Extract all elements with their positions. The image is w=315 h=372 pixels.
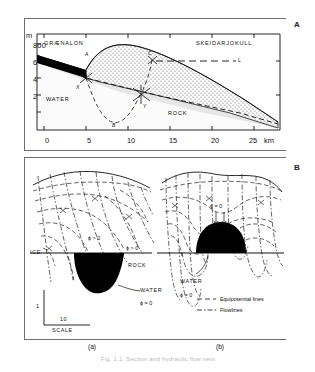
subpanel-caption-b: (b) <box>200 343 240 350</box>
subpanel-caption-a: (a) <box>72 343 112 350</box>
panel-b-b-label-water: WATER <box>180 278 202 284</box>
panel-b-b-water-leader <box>196 256 208 274</box>
panel-b-a-water-leader <box>118 285 140 291</box>
legend-label-equipotential: Equipotential lines <box>220 296 264 302</box>
panel-b-a-phi-pos-right: ϕ > 0 <box>126 245 138 251</box>
panel-b-b-phi-zero-top: ϕ = 0 <box>210 203 222 209</box>
panel-b-scale-horizontal: 10 <box>60 316 67 322</box>
panel-b-a-group <box>30 171 154 293</box>
panel-b-a-water-top <box>76 253 124 254</box>
panel-b-b-ice-surface <box>162 172 282 192</box>
panel-b-scale-vertical: 1 <box>36 303 40 309</box>
panel-b-legend-samples <box>197 299 216 310</box>
panel-b-b-phi-zero-bottom: ϕ = 0 <box>180 292 192 298</box>
figure-root: A m 800 600 400 200 0 0 5 10 15 20 25 km <box>0 0 315 372</box>
panel-b-a-label-rock: ROCK <box>128 262 146 268</box>
panel-b-scale-label: SCALE <box>52 327 73 333</box>
panel-b-b-group <box>157 172 284 306</box>
figure-caption: Fig. 1.1. Section and hydraulic flow net… <box>18 356 298 362</box>
panel-b-b-water-mound <box>196 222 246 253</box>
panel-b-a-net-crosses <box>46 196 132 251</box>
panel-b-a-label-ice: ICE <box>30 249 41 255</box>
panel-b-plot <box>0 0 315 372</box>
panel-b-a-label-water: WATER <box>140 287 162 293</box>
legend-label-flowlines: Flowlines <box>220 307 242 313</box>
panel-b-a-phi-zero: ϕ = 0 <box>140 300 152 306</box>
panel-b-a-phi-pos-left: ϕ > 0 <box>88 235 100 241</box>
